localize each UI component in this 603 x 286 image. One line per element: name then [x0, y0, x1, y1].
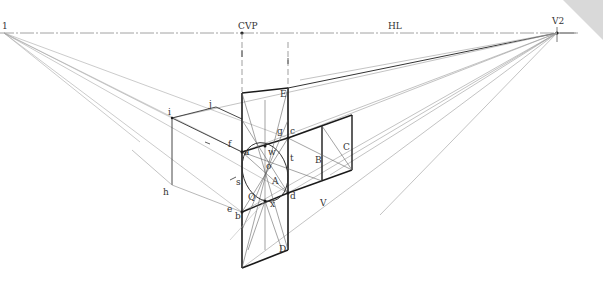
label-Q: Q [248, 193, 255, 202]
label-e: e [227, 205, 232, 214]
label-t: t [290, 154, 294, 163]
label-hl: HL [388, 22, 402, 31]
label-w: w [268, 148, 276, 157]
label-f: f [228, 140, 231, 149]
square-diagonals [230, 88, 352, 268]
direction-arrows [205, 50, 288, 180]
label-s: s [236, 178, 241, 187]
label-g: g [277, 127, 283, 136]
page-corner-fold [563, 0, 603, 40]
label-b: b [235, 212, 241, 221]
label-V: V [320, 199, 327, 208]
left-box [132, 107, 242, 212]
label-h: h [163, 188, 169, 197]
front-face-edges [242, 115, 352, 212]
vp1-construction-lines [4, 33, 288, 212]
label-D: D [279, 245, 286, 254]
diagram-canvas [0, 0, 603, 286]
label-i: i [168, 108, 171, 117]
label-x: x [270, 200, 275, 209]
label-C: C [343, 143, 350, 152]
label-B: B [315, 156, 322, 165]
label-o: o [266, 162, 271, 171]
label-A: A [272, 177, 279, 186]
label-a: a [244, 148, 249, 157]
label-j: j [209, 100, 212, 109]
label-d: d [290, 192, 296, 201]
perspective-diagram: 1CVPHLV2EijfgcawtoBCAshQdxebDV [0, 0, 603, 286]
v2-construction-lines [172, 33, 557, 268]
label-vp1: 1 [2, 22, 8, 31]
label-cvp: CVP [238, 22, 257, 31]
label-v2: V2 [552, 17, 564, 26]
label-c: c [290, 127, 295, 136]
label-E: E [280, 90, 287, 99]
